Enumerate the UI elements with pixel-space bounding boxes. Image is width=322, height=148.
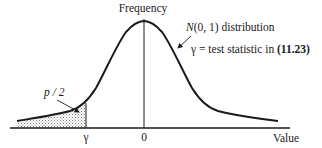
figure-canvas: Frequency N(0, 1) distribution γ = test … xyxy=(0,0,322,148)
x-axis-title: Value xyxy=(273,132,299,144)
curve-label-arrow-icon xyxy=(178,36,191,48)
normal-curve xyxy=(17,21,278,121)
tail-probability-label: p / 2 xyxy=(43,86,65,99)
tail-label-arrow-icon xyxy=(57,100,79,112)
distribution-label: N(0, 1) distribution xyxy=(185,21,275,34)
normal-distribution-figure: Frequency N(0, 1) distribution γ = test … xyxy=(0,0,322,148)
gamma-definition-text: = test statistic in xyxy=(196,43,277,55)
y-axis-title: Frequency xyxy=(119,2,168,15)
gamma-definition-label: γ = test statistic in (11.23) xyxy=(190,43,310,56)
distribution-label-suffix: (0, 1) distribution xyxy=(194,21,275,34)
x-tick-gamma: γ xyxy=(82,131,88,144)
gamma-definition-ref: (11.23) xyxy=(277,43,310,56)
x-tick-zero: 0 xyxy=(141,131,147,143)
